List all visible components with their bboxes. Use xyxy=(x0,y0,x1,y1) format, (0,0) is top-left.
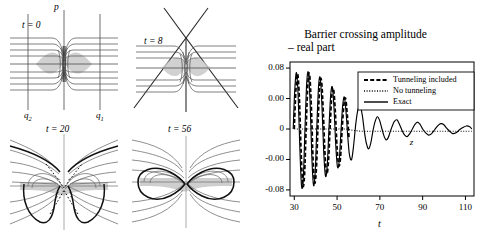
y-tick-label: -0.00 xyxy=(250,153,284,163)
panel-t0-axis-q1: q1 xyxy=(96,110,104,122)
x-tick-label: 90 xyxy=(408,202,438,212)
x-tick-label: 50 xyxy=(322,202,352,212)
phase-plot-t56 xyxy=(128,126,244,238)
phase-panel-t8: t = 8 xyxy=(128,4,244,122)
panel-t0-momentum-label: p xyxy=(54,2,59,12)
x-axis-label: t xyxy=(378,218,381,229)
y-tick-label: 0.00 xyxy=(250,93,284,103)
x-tick-label: 110 xyxy=(450,202,480,212)
x-tick-label: 70 xyxy=(365,202,395,212)
y-tick-label: 0.08 xyxy=(250,62,284,72)
phase-space-panel-grid: p t = 0 q2 q1 xyxy=(0,0,250,245)
phase-panel-t20: t = 20 xyxy=(6,126,122,238)
legend-label: Tunneling included xyxy=(393,75,457,84)
panel-t56-time-label: t = 56 xyxy=(168,124,191,134)
panel-t0-time-label: t = 0 xyxy=(22,20,41,30)
legend-label: Exact xyxy=(393,97,412,106)
phase-plot-t8 xyxy=(128,4,244,122)
y-tick-label: -0.08 xyxy=(250,184,284,194)
phase-plot-t20 xyxy=(6,126,122,238)
y-tick-label: 0 xyxy=(250,123,284,133)
phase-panel-t56: t = 56 xyxy=(128,126,244,238)
panel-t0-axis-q2: q2 xyxy=(24,110,32,122)
plot-area-wrapper: 0.080.000-0.00-0.0830507090110tzTunnelin… xyxy=(250,0,481,245)
figure-root: p t = 0 q2 q1 xyxy=(0,0,481,245)
legend-label: No tunneling xyxy=(393,86,436,95)
barrier-crossing-chart: Barrier crossing amplitude – real part 0… xyxy=(250,0,481,245)
panel-t20-time-label: t = 20 xyxy=(46,124,69,134)
phase-panel-t0: p t = 0 q2 q1 xyxy=(6,4,122,122)
panel-t8-time-label: t = 8 xyxy=(144,36,163,46)
z-annotation: z xyxy=(410,137,414,147)
x-tick-label: 30 xyxy=(279,202,309,212)
